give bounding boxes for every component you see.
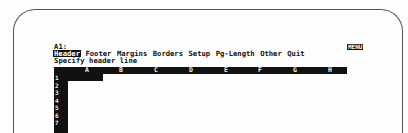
menu-item-other[interactable]: Other [260,50,282,57]
column-header-e[interactable]: E [224,67,228,74]
column-header-a[interactable]: A [85,67,89,74]
row-header-2[interactable]: 2 [55,82,59,89]
column-header-h[interactable]: H [328,67,332,74]
mode-indicator: MENU [347,44,363,50]
column-header-b[interactable]: B [119,67,123,74]
row-header-5[interactable]: 5 [55,104,59,111]
menu-item-setup[interactable]: Setup [189,50,211,57]
row-header-bar: 1 2 3 4 5 6 7 [54,74,68,133]
menu-item-borders[interactable]: Borders [153,50,183,57]
column-header-bar: A B C D E F G H [54,67,347,74]
cell-pointer-a1[interactable] [68,74,103,81]
column-header-c[interactable]: C [154,67,158,74]
menu-item-quit[interactable]: Quit [287,50,304,57]
column-header-d[interactable]: D [189,67,193,74]
row-header-4[interactable]: 4 [55,97,59,104]
photographed-screen: A1: MENU Header Footer Margins Borders S… [0,0,408,133]
column-header-f[interactable]: F [258,67,262,74]
row-header-7[interactable]: 7 [55,119,59,126]
row-header-6[interactable]: 6 [55,112,59,119]
row-header-3[interactable]: 3 [55,89,59,96]
column-header-g[interactable]: G [293,67,297,74]
row-header-1[interactable]: 1 [55,74,59,81]
menu-prompt: Specify header line [54,57,137,64]
menu-item-pg-length[interactable]: Pg-Length [216,50,255,57]
